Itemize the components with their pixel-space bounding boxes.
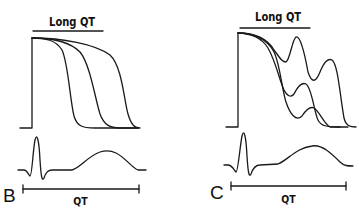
panel-c-title: Long QT <box>255 9 301 24</box>
ecg-trace-b <box>18 137 146 179</box>
panel-b-title: Long QT <box>49 14 95 29</box>
ap-trace-c-3 <box>238 33 356 127</box>
ap-upstroke-c <box>226 33 238 127</box>
panel-b-label: B <box>3 185 16 207</box>
figure-canvas <box>0 0 359 213</box>
ap-trace-c-1 <box>238 33 340 127</box>
ap-upstroke-b <box>20 38 32 128</box>
panel-c-qt-label: QT <box>281 193 295 206</box>
ecg-trace-c <box>224 133 353 175</box>
panel-c-label: C <box>210 182 224 204</box>
ap-trace-b-3 <box>32 38 140 128</box>
panel-b-qt-label: QT <box>73 195 87 208</box>
ap-trace-c-2 <box>238 33 348 127</box>
